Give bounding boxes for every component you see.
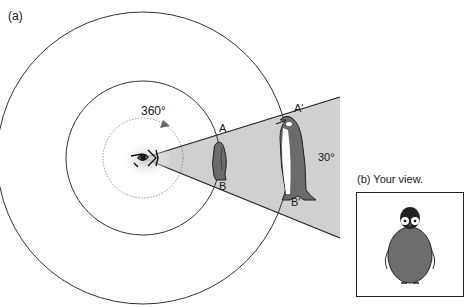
point-b-label: B bbox=[219, 181, 226, 192]
point-b-prime-label: B' bbox=[291, 197, 300, 208]
rotation-label: 360° bbox=[141, 105, 166, 117]
panel-a-label: (a) bbox=[8, 10, 23, 22]
point-a-prime-label: A' bbox=[294, 103, 303, 114]
your-view-box bbox=[356, 192, 464, 297]
angle-label: 30° bbox=[318, 152, 335, 163]
point-a-label: A bbox=[219, 123, 226, 134]
eye-glow bbox=[120, 140, 172, 180]
chick-penguin-icon bbox=[357, 193, 462, 295]
near-penguin bbox=[213, 142, 227, 180]
view-cone bbox=[143, 97, 340, 238]
rotation-arrow-icon bbox=[160, 120, 170, 128]
panel-b-label: (b) Your view. bbox=[357, 173, 423, 185]
